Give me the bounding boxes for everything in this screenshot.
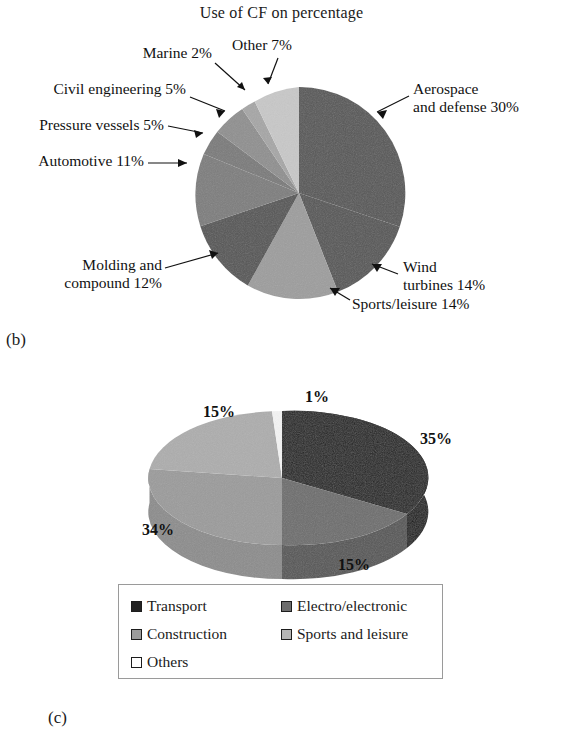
slice-sports-and-leisure xyxy=(150,411,283,478)
legend-swatch-icon-electro-electronic xyxy=(281,601,292,612)
data-label-sports-and-leisure: 15% xyxy=(203,403,235,421)
legend-item-transport[interactable]: Transport xyxy=(131,598,281,614)
callout-automotive: Automotive 11% xyxy=(2,152,144,170)
figure-b: Use of CF on percentage xyxy=(0,0,563,370)
callout-other: Other 7% xyxy=(232,36,292,54)
callout-marine: Marine 2% xyxy=(80,44,212,62)
data-label-construction: 34% xyxy=(142,521,174,539)
legend-swatch-icon-others xyxy=(131,657,142,668)
legend-label-electro-electronic: Electro/electronic xyxy=(297,598,407,614)
legend-item-electro-electronic[interactable]: Electro/electronic xyxy=(281,598,436,614)
figure-c: 1% 15% 35% 34% 15% Transport Electro/ele… xyxy=(0,370,563,749)
legend-swatch-icon-sports-and-leisure xyxy=(281,629,292,640)
legend-swatch-icon-transport xyxy=(131,601,142,612)
callout-molding-compound: Molding and compound 12% xyxy=(16,256,162,291)
callout-sports-leisure: Sports/leisure 14% xyxy=(352,295,470,313)
callout-aerospace: Aerospace and defense 30% xyxy=(413,80,519,115)
legend-label-construction: Construction xyxy=(147,626,227,642)
legend-label-sports-and-leisure: Sports and leisure xyxy=(297,626,408,642)
callout-wind-turbines: Wind turbines 14% xyxy=(403,258,485,293)
callout-pressure-vessels: Pressure vessels 5% xyxy=(0,116,164,134)
data-label-others: 1% xyxy=(305,388,329,406)
pie-chart-c xyxy=(0,370,563,749)
pie-slices-b xyxy=(196,87,406,299)
legend-c: Transport Electro/electronic Constructio… xyxy=(118,584,443,679)
legend-label-transport: Transport xyxy=(147,598,207,614)
legend-item-others[interactable]: Others xyxy=(131,654,281,670)
legend-item-construction[interactable]: Construction xyxy=(131,626,281,642)
legend-label-others: Others xyxy=(147,654,188,670)
panel-label-b: (b) xyxy=(6,330,26,350)
panel-label-c: (c) xyxy=(48,708,67,728)
callout-civil-engineering: Civil engineering 5% xyxy=(4,80,186,98)
data-label-electro-electronic: 15% xyxy=(338,556,370,574)
pie3d-slices-c xyxy=(148,411,428,580)
legend-item-sports-and-leisure[interactable]: Sports and leisure xyxy=(281,626,436,642)
data-label-transport: 35% xyxy=(420,430,452,448)
legend-swatch-icon-construction xyxy=(131,629,142,640)
